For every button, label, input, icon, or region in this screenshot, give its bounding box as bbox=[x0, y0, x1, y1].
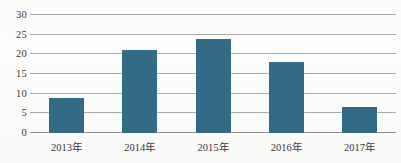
bar-slot bbox=[323, 14, 396, 133]
x-axis-label-2015: 2015年 bbox=[176, 134, 249, 161]
bar-2015 bbox=[196, 39, 231, 133]
y-axis-tick-label: 5 bbox=[22, 107, 27, 118]
x-axis-label-2017: 2017年 bbox=[323, 134, 396, 161]
y-axis-tick-label: 15 bbox=[16, 68, 27, 79]
y-axis-tick-label: 25 bbox=[16, 28, 27, 39]
y-axis-tick-label: 10 bbox=[16, 87, 27, 98]
y-axis: 30 25 20 15 10 5 0 bbox=[0, 0, 30, 163]
y-axis-tick-label: 30 bbox=[16, 9, 27, 20]
bar-slot bbox=[103, 14, 176, 133]
bar-slot bbox=[30, 14, 103, 133]
bar-2016 bbox=[269, 62, 304, 133]
x-axis-label-2014: 2014年 bbox=[103, 134, 176, 161]
y-axis-tick-label: 20 bbox=[16, 48, 27, 59]
plot-area bbox=[30, 14, 396, 133]
bar-2017 bbox=[342, 107, 377, 133]
x-axis-label-2016: 2016年 bbox=[250, 134, 323, 161]
bar-slot bbox=[250, 14, 323, 133]
bar-chart: 30 25 20 15 10 5 0 bbox=[0, 0, 401, 163]
bar-2013 bbox=[49, 98, 84, 133]
x-axis: 2013年 2014年 2015年 2016年 2017年 bbox=[30, 134, 396, 161]
bar-series bbox=[30, 14, 396, 133]
x-axis-label-2013: 2013年 bbox=[30, 134, 103, 161]
bar-slot bbox=[176, 14, 249, 133]
bar-2014 bbox=[122, 50, 157, 133]
y-axis-tick-label: 0 bbox=[22, 127, 27, 138]
